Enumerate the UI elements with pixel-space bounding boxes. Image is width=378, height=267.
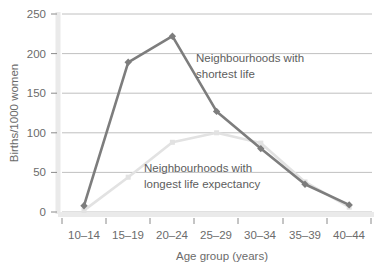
x-tick-label-20-24: 20–24 [156, 229, 189, 241]
y-tick-label-150: 150 [27, 87, 46, 99]
chart-container: 250 200 150 100 50 0 Births/1000 women 1… [0, 0, 378, 267]
y-axis-title: Births/1000 women [8, 64, 20, 162]
data-point-marker [258, 141, 263, 146]
data-point-marker [214, 130, 219, 135]
y-tick-label-100: 100 [27, 127, 46, 139]
x-axis-title: Age group (years) [176, 250, 268, 262]
y-tick-label-50: 50 [33, 166, 46, 178]
x-tick-label-15-19: 15–19 [112, 229, 144, 241]
x-tick-labels: 10–14 15–19 20–24 25–29 30–34 35–39 40–4… [68, 229, 366, 241]
annotation-shortest-life-line2: shortest life [196, 68, 255, 80]
annotation-longest-life-line1: Neighbourhoods with [144, 162, 252, 174]
y-tick-label-250: 250 [27, 8, 46, 20]
y-tick-label-0: 0 [40, 206, 46, 218]
line-chart: 250 200 150 100 50 0 Births/1000 women 1… [0, 0, 378, 267]
x-tick-label-10-14: 10–14 [68, 229, 101, 241]
annotation-longest-life-line2: longest life expectancy [144, 178, 261, 190]
x-tick-label-35-39: 35–39 [289, 229, 321, 241]
data-point-marker [126, 175, 131, 180]
annotation-shortest-life-line1: Neighbourhoods with [196, 52, 304, 64]
x-tick-label-25-29: 25–29 [200, 229, 232, 241]
x-tick-label-40-44: 40–44 [333, 229, 366, 241]
data-point-marker [170, 140, 175, 145]
x-tick-label-30-34: 30–34 [244, 229, 277, 241]
y-tick-label-200: 200 [27, 48, 46, 60]
